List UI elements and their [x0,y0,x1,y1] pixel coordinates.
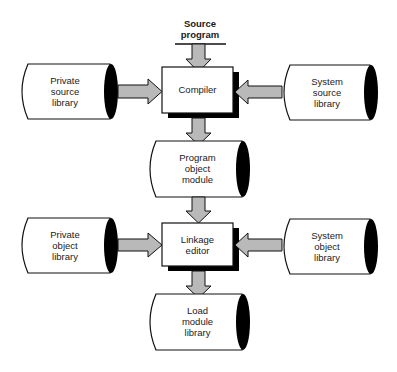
label-line: object [30,240,100,251]
label-line: object [160,163,235,174]
label-line: Private [30,229,100,240]
label-line: source [292,87,362,98]
label-line: Load [160,305,235,316]
compiler-text: Compiler [162,84,233,95]
label-line: Linkage [162,234,233,245]
label-line: System [292,230,362,241]
private-source-library-label: Private source library [30,75,100,108]
label-line: source [30,86,100,97]
label-line: library [30,251,100,262]
source-program-label: Source program [170,18,230,40]
load-module-library-label: Load module library [160,305,235,338]
system-object-library-label: System object library [292,230,362,263]
label-line: object [292,241,362,252]
label-line: editor [162,245,233,256]
private-object-library-label: Private object library [30,229,100,262]
label-line: library [292,252,362,263]
compiler-label: Compiler [162,84,233,95]
source-program-line1: Source [170,18,230,29]
source-program-line2: program [170,29,230,40]
arrow-private-object-to-linkage [118,233,162,257]
linkage-editor-label: Linkage editor [162,234,233,256]
system-source-library-label: System source library [292,76,362,109]
label-line: Program [160,152,235,163]
arrow-system-object-to-linkage [235,233,282,257]
label-line: System [292,76,362,87]
program-object-module-label: Program object module [160,152,235,185]
arrow-system-source-to-compiler [235,80,282,104]
label-line: library [30,97,100,108]
arrow-program-object-to-linkage [186,197,211,223]
label-line: module [160,174,235,185]
label-line: library [160,327,235,338]
label-line: Private [30,75,100,86]
label-line: library [292,98,362,109]
label-line: module [160,316,235,327]
arrow-private-source-to-compiler [118,79,162,104]
